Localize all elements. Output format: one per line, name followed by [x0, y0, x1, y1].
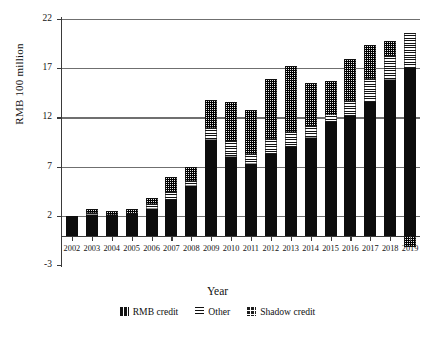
- x-tick-2008: [191, 236, 192, 241]
- x-tick-2015: [331, 236, 332, 241]
- bar-segment-2005-rmb: [126, 214, 138, 236]
- bar-segment-2008-rmb: [185, 186, 197, 235]
- legend-item-shadow-credit: Shadow credit: [247, 306, 315, 317]
- gridline-22: [62, 19, 420, 20]
- y-tick-7: [57, 167, 62, 168]
- bar-segment-2013-rmb: [285, 147, 297, 236]
- bar-segment-2018-rmb: [384, 80, 396, 236]
- bar-segment-2015-shadow: [325, 81, 337, 115]
- chart-figure: RMB 100 million -327121722 2002200320042…: [0, 0, 435, 337]
- y-axis-title: RMB 100 million: [13, 19, 25, 149]
- x-tick-label-2019: 2019: [395, 244, 425, 253]
- bar-segment-2007-other: [165, 192, 177, 200]
- bar-segment-2014-other: [305, 126, 317, 138]
- x-tick-2018: [390, 236, 391, 241]
- bar-segment-2005-shadow: [126, 209, 138, 214]
- bar-segment-2014-rmb: [305, 138, 317, 235]
- y-tick-17: [57, 68, 62, 69]
- chart-legend: RMB credit Other Shadow credit: [0, 306, 435, 317]
- bar-segment-2006-other: [146, 204, 158, 209]
- x-tick-2012: [271, 236, 272, 241]
- bar-segment-2011-shadow: [245, 110, 257, 154]
- bar-segment-2017-rmb: [364, 102, 376, 236]
- x-tick-2011: [251, 236, 252, 241]
- bar-segment-2007-rmb: [165, 200, 177, 235]
- x-tick-2013: [291, 236, 292, 241]
- bar-segment-2016-other: [344, 101, 356, 116]
- bar-segment-2015-rmb: [325, 122, 337, 235]
- bar-segment-2003-shadow: [86, 209, 98, 213]
- plot-area: [62, 19, 420, 265]
- y-tick-label-17: 17: [26, 63, 52, 73]
- bar-segment-2003-rmb: [86, 215, 98, 236]
- bar-segment-2017-shadow: [364, 45, 376, 79]
- bar-segment-2009-rmb: [205, 140, 217, 235]
- legend-label-shadow-credit: Shadow credit: [260, 306, 315, 317]
- bar-segment-2015-other: [325, 114, 337, 122]
- y-tick-12: [57, 117, 62, 118]
- bar-segment-2019-rmb: [404, 68, 416, 235]
- x-tick-2014: [311, 236, 312, 241]
- x-tick-2007: [171, 236, 172, 241]
- legend-label-rmb-credit: RMB credit: [133, 306, 179, 317]
- bar-segment-2006-rmb: [146, 209, 158, 236]
- bar-segment-2006-shadow: [146, 198, 158, 204]
- x-tick-2004: [112, 236, 113, 241]
- legend-item-rmb-credit: RMB credit: [120, 306, 179, 317]
- bar-segment-2009-other: [205, 128, 217, 140]
- bar-segment-2017-other: [364, 79, 376, 102]
- x-tick-2019: [410, 236, 411, 241]
- x-axis-title: Year: [0, 285, 435, 297]
- y-tick--3: [57, 265, 62, 266]
- zero-axis-line: [61, 236, 420, 237]
- x-tick-2003: [92, 236, 93, 241]
- y-tick-label-22: 22: [26, 14, 52, 24]
- x-tick-2006: [152, 236, 153, 241]
- x-tick-2009: [211, 236, 212, 241]
- bar-segment-2010-other: [225, 141, 237, 157]
- bar-segment-2013-other: [285, 132, 297, 147]
- bar-segment-2012-other: [265, 139, 277, 154]
- bar-segment-2009-shadow: [205, 100, 217, 129]
- bar-segment-2004-shadow: [106, 211, 118, 215]
- bar-segment-2011-other: [245, 154, 257, 164]
- bar-segment-2011-rmb: [245, 164, 257, 236]
- bar-segment-2012-rmb: [265, 154, 277, 236]
- y-tick-label-2: 2: [26, 211, 52, 221]
- y-tick-label-12: 12: [26, 112, 52, 122]
- y-tick-2: [57, 216, 62, 217]
- x-tick-2010: [231, 236, 232, 241]
- bar-segment-2014-shadow: [305, 83, 317, 126]
- bar-segment-2013-shadow: [285, 66, 297, 132]
- bar-segment-2010-rmb: [225, 157, 237, 236]
- bar-segment-2004-rmb: [106, 215, 118, 236]
- legend-swatch-rmb-credit: [120, 307, 129, 316]
- y-tick-label--3: -3: [26, 260, 52, 270]
- y-tick-label-7: 7: [26, 162, 52, 172]
- bar-segment-2007-shadow: [165, 177, 177, 192]
- bar-segment-2008-other: [185, 181, 197, 186]
- legend-swatch-other: [195, 307, 204, 316]
- bar-segment-2016-shadow: [344, 59, 356, 100]
- x-tick-2005: [132, 236, 133, 241]
- legend-swatch-shadow-credit: [247, 307, 256, 316]
- bar-segment-2010-shadow: [225, 102, 237, 141]
- bar-segment-2018-shadow: [384, 41, 396, 57]
- legend-label-other: Other: [208, 306, 230, 317]
- bar-segment-2003-other: [86, 213, 98, 215]
- bar-segment-2002-rmb: [66, 216, 78, 236]
- legend-item-other: Other: [195, 306, 230, 317]
- y-tick-22: [57, 19, 62, 20]
- bar-segment-2016-rmb: [344, 116, 356, 236]
- x-tick-2016: [350, 236, 351, 241]
- bar-segment-2012-shadow: [265, 79, 277, 139]
- bar-segment-2008-shadow: [185, 167, 197, 182]
- x-tick-2017: [370, 236, 371, 241]
- bar-segment-2018-other: [384, 56, 396, 80]
- bar-segment-2019-other: [404, 33, 416, 68]
- x-tick-2002: [72, 236, 73, 241]
